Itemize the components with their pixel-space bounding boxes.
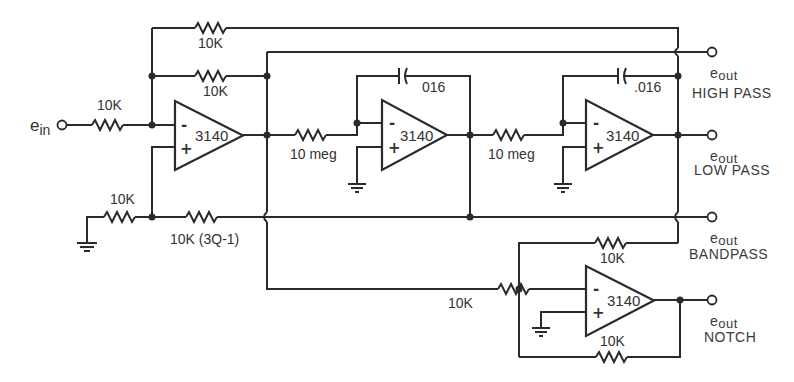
resistor-top-feedback-icon — [195, 23, 226, 33]
wire — [563, 147, 586, 183]
input-terminal-circle — [58, 121, 67, 130]
inverting-input-sign: - — [181, 116, 187, 134]
inverting-input-sign: - — [593, 114, 599, 132]
output-label: eout — [710, 65, 738, 83]
junction-dot — [467, 214, 474, 221]
wire — [152, 147, 175, 217]
noninverting-input-sign: + — [180, 140, 193, 158]
opamp-u2: - + 3140 — [382, 100, 447, 170]
wire — [267, 222, 498, 289]
resistor-ground-label: 10K — [110, 191, 136, 207]
output-terminal-circle — [708, 213, 717, 222]
opamp-label: 3140 — [195, 127, 228, 144]
output-bandpass: eout BANDPASS — [689, 213, 768, 263]
resistor-notch-in-label: 10K — [448, 295, 474, 311]
capacitor-c2-label: .016 — [634, 79, 661, 95]
wire — [357, 147, 382, 183]
capacitor-c1-label: 016 — [422, 79, 446, 95]
output-name: BANDPASS — [689, 246, 768, 262]
resistor-q-label: 10K (3Q-1) — [170, 231, 239, 247]
resistor-notch-fb-label: 10K — [600, 333, 626, 349]
opamp-u4: - + 3140 — [586, 266, 654, 336]
resistor-feedback-label: 10K — [203, 83, 229, 99]
opamp-label: 3140 — [400, 127, 433, 144]
resistor-notch-in-icon — [498, 284, 529, 294]
junction-dot — [149, 214, 156, 221]
resistor-ground-icon — [104, 212, 135, 222]
input-terminal: ein — [30, 116, 67, 138]
junction-dot — [675, 73, 682, 80]
resistor-input-icon — [92, 120, 123, 130]
wire — [524, 123, 586, 135]
output-high-pass: eout HIGH PASS — [692, 48, 772, 102]
resistor-notch-fb-icon — [596, 352, 627, 362]
ground-icon — [348, 184, 366, 192]
output-low-pass: eout LOW PASS — [694, 131, 770, 179]
opamp-u1: - + 3140 — [175, 101, 243, 170]
opamp-label: 3140 — [606, 127, 639, 144]
resistor-int1-icon — [295, 130, 326, 140]
wire — [519, 243, 595, 357]
resistor-notch-bp-label: 10K — [600, 250, 626, 266]
wire — [87, 217, 104, 242]
output-notch: eout NOTCH — [704, 296, 756, 346]
resistor-int2-icon — [493, 130, 524, 140]
ground-icon — [554, 184, 572, 192]
filter-schematic: ein 10K 10K 10K - + 3140 10 meg 016 — [0, 0, 794, 382]
inverting-input-sign: - — [593, 280, 599, 298]
wire — [226, 28, 678, 48]
output-terminal-circle — [708, 131, 717, 140]
resistor-feedback-icon — [195, 71, 226, 81]
noninverting-input-sign: + — [388, 139, 401, 157]
noninverting-input-sign: + — [592, 304, 605, 322]
ground-icon — [532, 328, 550, 336]
inverting-input-sign: - — [389, 114, 395, 132]
resistor-int1-label: 10 meg — [290, 146, 337, 162]
noninverting-input-sign: + — [592, 139, 605, 157]
output-name: NOTCH — [704, 329, 756, 345]
opamp-u3: - + 3140 — [586, 100, 653, 170]
resistor-q-icon — [186, 212, 217, 222]
resistor-int2-label: 10 meg — [488, 146, 535, 162]
output-terminal-circle — [708, 296, 717, 305]
output-name: HIGH PASS — [692, 85, 772, 101]
opamp-label: 3140 — [607, 292, 640, 309]
resistor-notch-bp-icon — [595, 238, 626, 248]
resistor-top-feedback-label: 10K — [198, 35, 224, 51]
output-name: LOW PASS — [694, 162, 770, 178]
output-terminal-circle — [708, 48, 717, 57]
ground-icon — [77, 243, 97, 251]
wire — [541, 312, 586, 327]
junction-dot — [467, 132, 474, 139]
input-label: ein — [30, 116, 50, 138]
resistor-input-label: 10K — [97, 97, 123, 113]
